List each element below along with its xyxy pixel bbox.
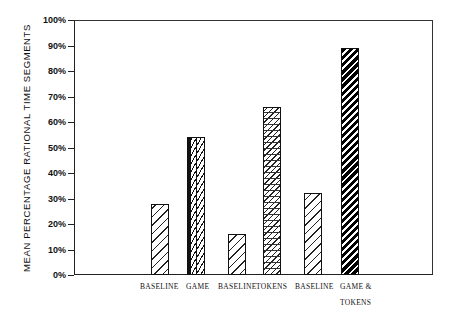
y-tick-label: 20% bbox=[48, 219, 66, 229]
y-tick bbox=[68, 224, 74, 225]
x-tick-label: GAME bbox=[186, 279, 209, 295]
bar-baseline bbox=[304, 193, 322, 275]
x-tick-label: BASELINE bbox=[295, 279, 334, 295]
y-tick-label: 100% bbox=[43, 15, 66, 25]
y-tick-label: 70% bbox=[48, 92, 66, 102]
y-tick-label: 90% bbox=[48, 41, 66, 51]
y-tick-label: 10% bbox=[48, 245, 66, 255]
bar-game bbox=[187, 137, 205, 275]
x-tick-label: BASELINE bbox=[218, 279, 257, 295]
y-tick-label: 0% bbox=[53, 270, 66, 280]
y-tick bbox=[68, 46, 74, 47]
y-tick bbox=[68, 250, 74, 251]
y-axis-label: MEAN PERCENTAGE RATIONAL TIME SEGMENTS bbox=[21, 24, 32, 272]
y-tick bbox=[68, 97, 74, 98]
y-tick bbox=[68, 71, 74, 72]
bar-baseline bbox=[228, 234, 246, 275]
y-tick-label: 50% bbox=[48, 143, 66, 153]
bar-tokens bbox=[263, 107, 281, 275]
bar-baseline bbox=[151, 204, 169, 275]
plot-frame bbox=[74, 20, 433, 275]
y-tick-label: 80% bbox=[48, 66, 66, 76]
y-tick-label: 40% bbox=[48, 168, 66, 178]
y-tick bbox=[68, 20, 74, 21]
y-tick bbox=[68, 173, 74, 174]
y-tick bbox=[68, 122, 74, 123]
bar-game-tokens bbox=[341, 48, 359, 275]
y-tick-label: 30% bbox=[48, 194, 66, 204]
x-tick-label: TOKENS bbox=[256, 279, 287, 295]
y-tick-label: 60% bbox=[48, 117, 66, 127]
y-tick bbox=[68, 199, 74, 200]
y-tick bbox=[68, 275, 74, 276]
x-tick-label: BASELINE bbox=[140, 279, 179, 295]
y-tick bbox=[68, 148, 74, 149]
x-tick-label: GAME & TOKENS bbox=[340, 279, 372, 311]
